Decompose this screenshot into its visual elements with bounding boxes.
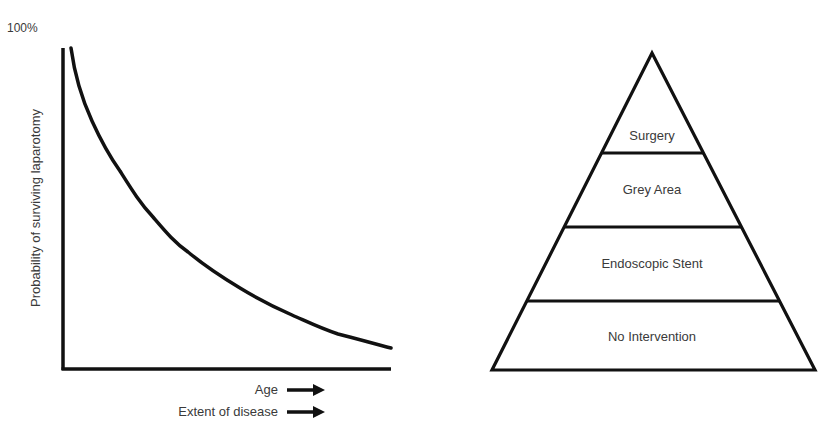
pyramid-tier-surgery: Surgery xyxy=(629,128,675,143)
right-arrow-icon xyxy=(287,406,325,418)
survival-chart: 100% Probability of surviving laparotomy… xyxy=(7,21,391,419)
right-arrow-icon xyxy=(287,384,325,396)
y-max-label: 100% xyxy=(7,21,38,35)
x-axis-label-extent: Extent of disease xyxy=(178,404,278,419)
pyramid-tier-no-intervention: No Intervention xyxy=(608,329,696,344)
pyramid-outline xyxy=(492,53,815,370)
figure-canvas: 100% Probability of surviving laparotomy… xyxy=(0,0,833,440)
x-axis-label-age: Age xyxy=(255,382,278,397)
treatment-pyramid: Surgery Grey Area Endoscopic Stent No In… xyxy=(492,53,815,370)
y-axis-label: Probability of surviving laparotomy xyxy=(28,109,43,307)
survival-curve xyxy=(71,48,391,348)
pyramid-tier-grey-area: Grey Area xyxy=(623,182,682,197)
pyramid-tier-endoscopic-stent: Endoscopic Stent xyxy=(601,256,703,271)
